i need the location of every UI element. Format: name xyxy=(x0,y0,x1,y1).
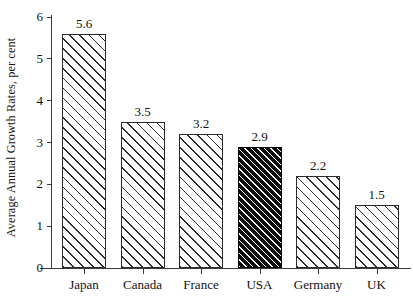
bar-value-label-germany: 2.2 xyxy=(288,158,348,173)
x-axis-tick-mark xyxy=(377,269,378,274)
x-axis-tick-mark xyxy=(84,269,85,274)
x-axis-tick-mark xyxy=(260,269,261,274)
bar-uk xyxy=(355,205,399,268)
y-axis-tick-label: 1 xyxy=(37,217,44,235)
y-axis-tick-label: 3 xyxy=(37,134,44,152)
y-axis-tick-label: 5 xyxy=(37,50,44,68)
bar-value-label-uk: 1.5 xyxy=(347,187,407,202)
bar-usa xyxy=(238,147,282,268)
x-axis-label-uk: UK xyxy=(337,277,413,293)
bar-germany xyxy=(296,176,340,268)
bar-japan xyxy=(62,34,106,268)
bar-canada xyxy=(121,122,165,268)
y-axis-tick-label: 6 xyxy=(37,8,44,26)
bar-chart: Average Annual Growth Rates, per cent 01… xyxy=(0,0,413,307)
y-axis-tick-label: 2 xyxy=(37,175,44,193)
bar-value-label-france: 3.2 xyxy=(171,116,231,131)
y-axis-title: Average Annual Growth Rates, per cent xyxy=(0,0,24,275)
x-axis-tick-mark xyxy=(201,269,202,274)
bar-value-label-japan: 5.6 xyxy=(54,16,114,31)
bar-france xyxy=(179,134,223,268)
x-axis-tick-mark xyxy=(143,269,144,274)
bar-value-label-canada: 3.5 xyxy=(113,104,173,119)
x-axis-line xyxy=(40,268,411,269)
bar-value-label-usa: 2.9 xyxy=(230,129,290,144)
y-axis-tick-label: 4 xyxy=(37,92,44,110)
y-axis-tick-label: 0 xyxy=(37,259,44,277)
x-axis-tick-mark xyxy=(318,269,319,274)
y-axis-title-text: Average Annual Growth Rates, per cent xyxy=(5,38,20,237)
